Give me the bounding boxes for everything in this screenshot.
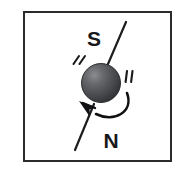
south-pole-label: S — [87, 27, 101, 50]
motion-line-right-2 — [131, 71, 132, 82]
north-pole-label: N — [103, 129, 118, 152]
figure-container: S N — [0, 0, 184, 174]
particle-sphere — [82, 64, 121, 103]
spin-magnetic-moment-diagram: S N — [0, 0, 184, 174]
motion-line-right-1 — [126, 71, 127, 82]
